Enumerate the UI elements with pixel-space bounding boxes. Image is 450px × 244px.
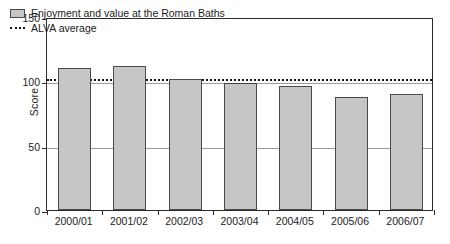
- bar[interactable]: [335, 97, 368, 210]
- chart-legend: Enjoyment and value at the Roman Baths A…: [10, 6, 225, 36]
- y-axis-tick-label: 100: [14, 77, 40, 88]
- x-axis-tick-mark: [47, 210, 48, 215]
- bar[interactable]: [279, 86, 312, 210]
- legend-dotted-line-icon: [10, 27, 25, 29]
- bar[interactable]: [390, 94, 423, 210]
- x-axis-tick-label: 2003/04: [210, 216, 270, 227]
- x-axis-tick-mark: [434, 210, 435, 215]
- x-axis-tick-label: 2001/02: [99, 216, 159, 227]
- x-axis-tick-mark: [268, 210, 269, 215]
- x-axis-tick-label: 2005/06: [320, 216, 380, 227]
- x-axis-tick-label: 2002/03: [154, 216, 214, 227]
- legend-bar-swatch-icon: [10, 9, 25, 18]
- y-axis-tick-label: 50: [14, 142, 40, 153]
- bar[interactable]: [224, 83, 257, 210]
- plot-area: [46, 18, 433, 211]
- x-axis-tick-mark: [213, 210, 214, 215]
- legend-item-alva-average: ALVA average: [10, 21, 225, 35]
- bar[interactable]: [169, 79, 202, 210]
- bar-chart-figure: Score 050100150 Enjoyment and value at t…: [0, 0, 450, 244]
- x-axis-tick-label: 2006/07: [375, 216, 435, 227]
- x-axis-tick-label: 2004/05: [265, 216, 325, 227]
- x-axis-tick-mark: [379, 210, 380, 215]
- y-axis-tick-labels: 050100150: [14, 0, 40, 244]
- bar[interactable]: [113, 66, 146, 210]
- x-axis-tick-mark: [102, 210, 103, 215]
- legend-item-enjoyment: Enjoyment and value at the Roman Baths: [10, 6, 225, 20]
- legend-label-alva-average: ALVA average: [31, 23, 97, 34]
- y-axis-tick-label: 0: [14, 206, 40, 217]
- x-axis-tick-mark: [158, 210, 159, 215]
- bar[interactable]: [58, 68, 91, 210]
- x-axis-tick-label: 2000/01: [44, 216, 104, 227]
- legend-label-enjoyment: Enjoyment and value at the Roman Baths: [31, 8, 225, 19]
- x-axis-tick-mark: [323, 210, 324, 215]
- alva-average-reference-line: [47, 79, 432, 81]
